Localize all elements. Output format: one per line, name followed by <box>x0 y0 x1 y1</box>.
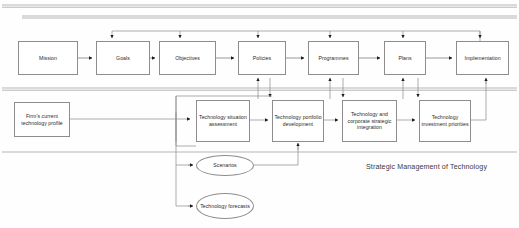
diagram-caption: Strategic Management of Technology <box>366 163 487 171</box>
node-objectives[interactable] <box>159 41 216 75</box>
node-goals[interactable] <box>96 41 150 75</box>
cross-layer-downward-links <box>270 78 418 97</box>
node-technology-corporate-strategic-integration[interactable] <box>342 100 397 142</box>
node-technology-forecasts[interactable] <box>196 193 254 219</box>
node-technology-portfolio-development[interactable] <box>272 100 324 142</box>
strategic-management-of-technology-diagram: Mission Goals Objectives Policies Progra… <box>0 0 519 228</box>
node-plans[interactable] <box>384 41 426 75</box>
node-firm-current-technology-profile[interactable] <box>14 102 70 137</box>
node-policies[interactable] <box>238 41 286 75</box>
node-programmes[interactable] <box>308 41 359 75</box>
strategy-feedback-bus <box>112 31 480 41</box>
node-technology-investment-priorities[interactable] <box>419 100 471 142</box>
node-scenarios[interactable] <box>196 155 254 176</box>
node-mission[interactable] <box>18 41 78 75</box>
node-technology-situation-assessment[interactable] <box>196 100 250 142</box>
node-implementation[interactable] <box>456 41 509 75</box>
scenarios-to-portfolio-link <box>254 143 298 165</box>
